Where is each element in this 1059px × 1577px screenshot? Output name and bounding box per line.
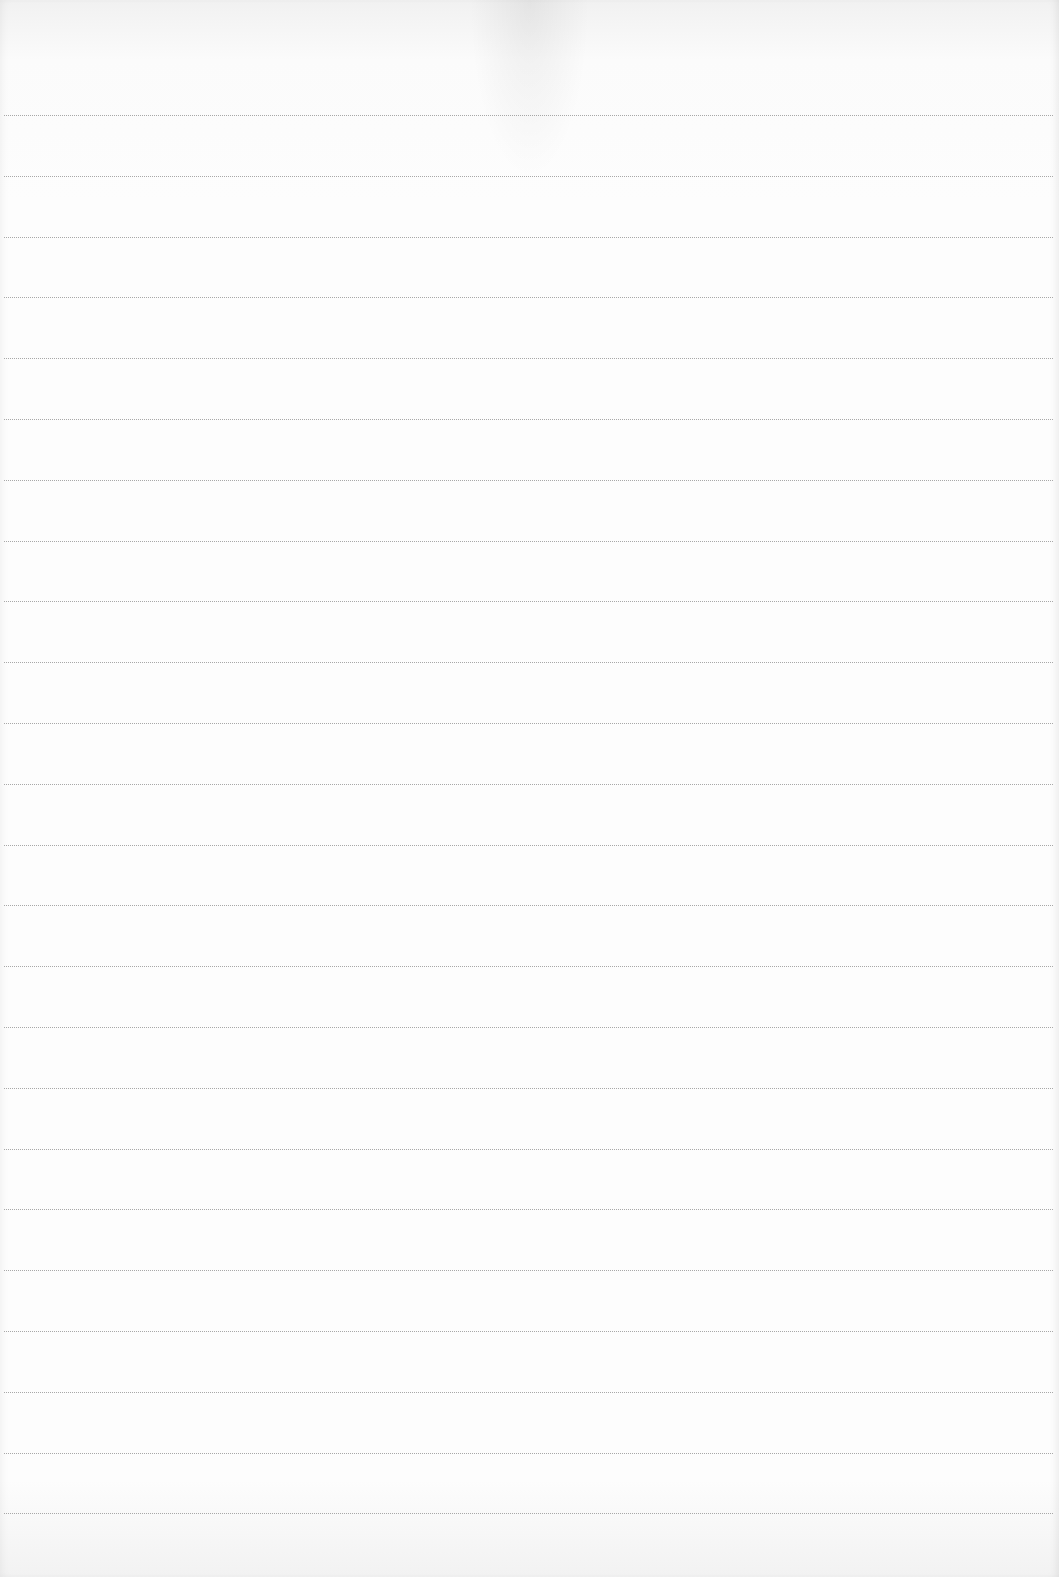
lined-paper-sheet <box>0 0 1059 1577</box>
ruled-line <box>4 237 1053 238</box>
ruled-line <box>4 1209 1053 1210</box>
ruled-line <box>4 905 1053 906</box>
ruled-line <box>4 480 1053 481</box>
ruled-line <box>4 784 1053 785</box>
ruled-line <box>4 845 1053 846</box>
ruled-line <box>4 1088 1053 1089</box>
ruled-line <box>4 1331 1053 1332</box>
ruled-line <box>4 1513 1053 1514</box>
ruled-line <box>4 601 1053 602</box>
ruled-line <box>4 297 1053 298</box>
ruled-line <box>4 662 1053 663</box>
ruled-line <box>4 966 1053 967</box>
ruled-line <box>4 1392 1053 1393</box>
ruled-line <box>4 541 1053 542</box>
ruled-line <box>4 1453 1053 1454</box>
ruled-line <box>4 1027 1053 1028</box>
ruled-line <box>4 115 1053 116</box>
ruled-line <box>4 723 1053 724</box>
ruled-line <box>4 1149 1053 1150</box>
ruled-line <box>4 358 1053 359</box>
ruled-line <box>4 176 1053 177</box>
ruled-line <box>4 419 1053 420</box>
ruled-line <box>4 1270 1053 1271</box>
